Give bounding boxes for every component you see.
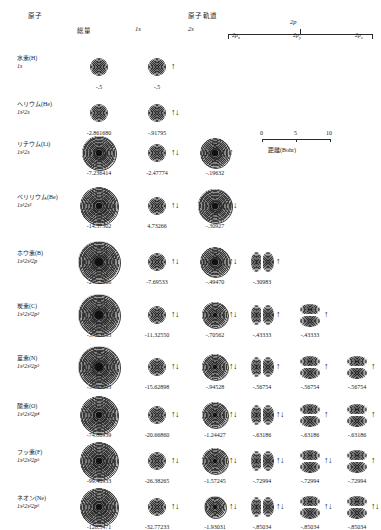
- p-orbital-lobes: [346, 496, 368, 518]
- spin-up-icon: ↑: [229, 148, 233, 157]
- header-atom-label: 原子: [28, 10, 43, 20]
- element-row: 窒素(N)1s²2s²2p³-54.40093-15.62898↑↓-.9452…: [0, 344, 381, 390]
- s-orbital-cloud: [148, 358, 166, 376]
- spin-up-icon: ↑: [276, 362, 280, 371]
- element-row: ベリリウム(Be)1s²2s²-14.573024.73266↑↓-.30927…: [0, 183, 381, 229]
- p-orbital-lobes: [346, 450, 368, 472]
- element-name: 水素(H): [17, 54, 37, 62]
- s-orbital-cloud: [78, 241, 120, 283]
- p-orbital-lobes: [346, 404, 368, 426]
- spin-pair-icon: ↑↓: [171, 410, 179, 419]
- s-orbital-cloud: [202, 402, 228, 428]
- spin-pair-icon: ↑↓: [171, 148, 179, 157]
- s-orbital-cloud: [202, 354, 228, 380]
- s-orbital-cloud: [200, 138, 230, 168]
- s-orbital-cloud: [148, 253, 166, 271]
- element-row: 炭素(C)1s²2s²2p²-37.63133-11.32550↑↓-.7056…: [0, 292, 381, 338]
- element-configuration: 1s: [17, 62, 22, 70]
- p-orbital-lobes: [251, 450, 273, 472]
- spin-pair-icon: ↑↓: [229, 456, 237, 465]
- spin-up-icon: ↑: [324, 410, 328, 419]
- element-configuration: 1s²2s²2p⁶: [17, 502, 39, 510]
- orbital-energy-value: -.43333: [236, 332, 288, 338]
- s-orbital-cloud: [80, 187, 118, 225]
- orbital-energy-value: -7.236414: [73, 170, 125, 176]
- orbital-energy-value: -2.47774: [131, 170, 183, 176]
- element-configuration: 1s²2s²2p⁴: [17, 410, 39, 418]
- element-configuration: 1s²2s²2p⁵: [17, 456, 39, 464]
- header-2p-sub-x: 2px: [232, 32, 240, 40]
- spin-pair-icon: ↑↓: [276, 502, 284, 511]
- element-name: フッ素(F): [17, 448, 42, 456]
- orbital-energy-value: -11.32550: [131, 332, 183, 338]
- spin-pair-icon: ↑↓: [324, 456, 332, 465]
- spin-pair-icon: ↑↓: [171, 502, 179, 511]
- spin-up-icon: ↑: [371, 410, 375, 419]
- s-orbital-cloud: [148, 144, 166, 162]
- orbital-energy-value: -1.93031: [189, 524, 241, 530]
- orbital-energy-value: -.85034: [236, 524, 288, 530]
- spin-up-icon: ↑: [371, 456, 375, 465]
- p-orbital-lobes: [299, 404, 321, 426]
- element-configuration: 1s²2s: [17, 148, 29, 156]
- element-row: 水素(H)1s-.5-.5↑: [0, 44, 381, 90]
- orbital-energy-value: -.19632: [189, 170, 241, 176]
- orbital-energy-value: -.43333: [284, 332, 336, 338]
- p-orbital-lobes: [299, 304, 321, 326]
- s-orbital-cloud: [82, 136, 116, 170]
- orbital-energy-value: -.85034: [284, 524, 336, 530]
- orbital-energy-value: -.30927: [189, 223, 241, 229]
- element-row: 酸素(O)1s²2s²2p⁴-74.80939-20.66860↑↓-1.244…: [0, 392, 381, 438]
- s-orbital-cloud: [148, 58, 166, 76]
- p-orbital-lobes: [251, 404, 273, 426]
- orbital-energy-value: -.56754: [236, 384, 288, 390]
- s-orbital-cloud: [204, 496, 226, 518]
- orbital-energy-value: -128.5471: [73, 524, 125, 530]
- orbital-energy-value: -54.40093: [73, 384, 125, 390]
- spin-pair-icon: ↑↓: [229, 201, 237, 210]
- p-orbital-lobes: [251, 304, 273, 326]
- s-orbital-cloud: [148, 498, 166, 516]
- spin-pair-icon: ↑↓: [171, 456, 179, 465]
- element-name: 窒素(N): [17, 354, 37, 362]
- s-orbital-cloud: [90, 58, 108, 76]
- spin-pair-icon: ↑↓: [229, 410, 237, 419]
- orbital-energy-value: -.94528: [189, 384, 241, 390]
- s-orbital-cloud: [198, 189, 232, 223]
- p-orbital-lobes: [251, 496, 273, 518]
- element-name: ネオン(Ne): [17, 494, 46, 502]
- header-atomic-orbital-label: 原子軌道: [188, 10, 218, 20]
- element-name: ベリリウム(Be): [17, 193, 58, 201]
- header-2p-label: 2p: [290, 18, 297, 25]
- orbital-energy-value: -.30983: [236, 279, 288, 285]
- element-name: ヘリウム(He): [17, 100, 52, 108]
- spin-pair-icon: ↑↓: [171, 362, 179, 371]
- orbital-energy-value: -.49470: [189, 279, 241, 285]
- spin-pair-icon: ↑↓: [171, 310, 179, 319]
- s-orbital-cloud: [148, 104, 166, 122]
- spin-up-icon: ↑: [171, 62, 175, 71]
- spin-pair-icon: ↑↓: [371, 502, 379, 511]
- s-orbital-cloud: [80, 442, 118, 480]
- s-orbital-cloud: [78, 346, 120, 388]
- element-row: リチウム(Li)1s²2s-7.236414-2.47774↑↓-.19632↑: [0, 130, 381, 176]
- s-orbital-cloud: [148, 406, 166, 424]
- element-name: ホウ素(B): [17, 249, 43, 257]
- orbital-energy-value: -.56754: [331, 384, 381, 390]
- orbital-energy-value: -.85034: [331, 524, 381, 530]
- spin-up-icon: ↑: [324, 362, 328, 371]
- spin-pair-icon: ↑↓: [229, 362, 237, 371]
- element-configuration: 1s²2s: [17, 108, 29, 116]
- spin-pair-icon: ↑↓: [229, 310, 237, 319]
- orbital-energy-value: 4.73266: [131, 223, 183, 229]
- s-orbital-cloud: [90, 104, 108, 122]
- orbital-energy-value: -7.69533: [131, 279, 183, 285]
- p-orbital-lobes: [299, 450, 321, 472]
- header-total-label: 総量: [77, 25, 91, 35]
- spin-pair-icon: ↑↓: [171, 201, 179, 210]
- s-orbital-cloud: [78, 294, 120, 336]
- header-2p-sub-y: 2py: [293, 32, 301, 40]
- s-orbital-cloud: [148, 197, 166, 215]
- element-configuration: 1s²2s²2p²: [17, 310, 39, 318]
